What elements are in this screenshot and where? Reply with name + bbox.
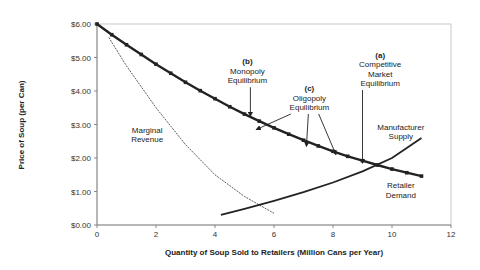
annotation-text: Manufacturer — [377, 123, 424, 132]
retailer-demand-marker — [243, 112, 247, 116]
annotation-text: Competitive — [359, 60, 402, 69]
y-tick-label: $6.00 — [71, 20, 92, 29]
retailer-demand-marker — [420, 174, 424, 178]
x-tick-label: 4 — [213, 230, 218, 239]
retailer-demand-marker — [95, 22, 99, 26]
retailer-demand-marker — [405, 171, 409, 175]
annotation-text: (b) — [242, 57, 253, 66]
annotation-mono: (b)MonopolyEquilibrium — [228, 57, 268, 116]
annotation-supply: ManufacturerSupply — [377, 123, 424, 142]
annotation-text: Retailer — [387, 181, 415, 190]
y-tick-label: $3.00 — [71, 121, 92, 130]
annotation-oli: (c)OligopolyEquilibrium — [256, 84, 336, 155]
manufacturer-supply-line — [221, 138, 422, 215]
x-tick-label: 8 — [331, 230, 336, 239]
x-axis-label: Quantity of Soup Sold to Retailers (Mill… — [165, 248, 383, 257]
retailer-demand-marker — [257, 119, 261, 123]
x-tick-label: 6 — [272, 230, 277, 239]
retailer-demand-marker — [213, 97, 217, 101]
y-tick-label: $4.00 — [71, 87, 92, 96]
retailer-demand-marker — [390, 167, 394, 171]
retailer-demand-marker — [346, 155, 350, 159]
annotation-text: Revenue — [131, 135, 164, 144]
retailer-demand-marker — [169, 71, 173, 75]
annotation-text: (a) — [375, 51, 385, 60]
y-tick-label: $1.00 — [71, 188, 92, 197]
annotation-text: Market — [368, 70, 393, 79]
annotation-text: Equilibrium — [360, 79, 400, 88]
y-tick-label: $0.00 — [71, 221, 92, 230]
annotation-text: Equilibrium — [290, 103, 330, 112]
annotation-demand: RetailerDemand — [386, 181, 416, 200]
retailer-demand-marker — [228, 105, 232, 109]
retailer-demand-marker — [302, 138, 306, 142]
annotation-text: Demand — [386, 191, 416, 200]
y-axis-label: Price of Soup (per Can) — [17, 80, 26, 169]
chart: 024681012$0.00$1.00$2.00$3.00$4.00$5.00$… — [0, 0, 480, 270]
annotation-text: Oligopoly — [293, 94, 326, 103]
y-tick-label: $2.00 — [71, 154, 92, 163]
y-tick-label: $5.00 — [71, 54, 92, 63]
annotation-text: Monopoly — [230, 67, 265, 76]
retailer-demand-marker — [184, 80, 188, 84]
x-tick-label: 12 — [447, 230, 456, 239]
annotation-text: (c) — [305, 84, 315, 93]
annotation-text: Supply — [389, 132, 413, 141]
retailer-demand-marker — [125, 43, 129, 47]
annotation-text: Equilibrium — [228, 76, 268, 85]
retailer-demand-marker — [272, 126, 276, 130]
retailer-demand-line — [97, 24, 422, 176]
retailer-demand-marker — [287, 132, 291, 136]
x-tick-label: 0 — [95, 230, 100, 239]
x-tick-label: 10 — [388, 230, 397, 239]
retailer-demand-marker — [198, 89, 202, 93]
annotation-comp: (a)CompetitiveMarketEquilibrium — [359, 51, 402, 164]
x-tick-label: 2 — [154, 230, 159, 239]
retailer-demand-marker — [139, 53, 143, 57]
retailer-demand-marker — [110, 33, 114, 37]
retailer-demand-marker — [316, 144, 320, 148]
retailer-demand-marker — [154, 62, 158, 66]
annotation-mr: MarginalRevenue — [131, 126, 164, 145]
annotation-text: Marginal — [132, 126, 163, 135]
